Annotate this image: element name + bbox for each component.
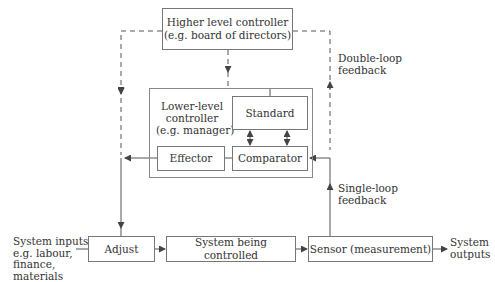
higher-controller-line1: Higher level controller [167,16,288,29]
system-being-controlled-box: System being controlled [166,236,296,262]
double-loop-feedback-label: Double-loop feedback [338,52,402,76]
effector-box: Effector [157,146,225,171]
lower-controller-label: Lower-level controller (e.g. manager) [156,100,228,136]
system-outputs-label: System outputs [450,236,490,260]
standard-box: Standard [232,96,308,130]
comparator-box: Comparator [232,146,308,171]
adjust-box: Adjust [88,236,155,262]
single-loop-feedback-label: Single-loop feedback [338,182,398,206]
sensor-box: Sensor (measurement) [308,236,433,262]
higher-controller-line2: (e.g. board of directors) [164,29,291,42]
system-inputs-label: System inputs e.g. labour, finance, mate… [13,236,88,282]
higher-level-controller-box: Higher level controller (e.g. board of d… [162,8,293,50]
